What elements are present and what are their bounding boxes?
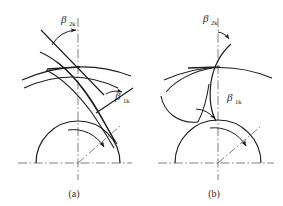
panel-a-blade-curve-1 bbox=[40, 52, 115, 142]
panel-a-secondary-arc bbox=[24, 77, 118, 88]
panel-a-beta1k-subscript: 1k bbox=[123, 97, 130, 104]
panel-b-outlet-angle-label: β 2k bbox=[202, 12, 218, 26]
panel-b-blade-curve-2 bbox=[198, 84, 209, 122]
panel-b-beta2k-symbol: β bbox=[202, 12, 209, 24]
panel-b-envelope-arc bbox=[161, 96, 198, 122]
panel-a-caption: (a) bbox=[68, 188, 79, 200]
panel-a-outlet-angle-label: β 2k bbox=[60, 13, 76, 27]
panel-b-radius-ray bbox=[218, 126, 261, 163]
panel-b-inlet-angle-label: β 1k bbox=[226, 91, 242, 105]
panel-a-beta1k-symbol: β bbox=[114, 90, 121, 102]
panel-a-blade-curve-3 bbox=[57, 62, 117, 144]
panel-a-outlet-angle-arc bbox=[52, 30, 76, 45]
panel-b-beta1k-subscript: 1k bbox=[235, 98, 242, 105]
panel-a-beta2k-subscript: 2k bbox=[69, 20, 76, 27]
panel-b-beta1k-symbol: β bbox=[226, 91, 233, 103]
panel-a-rotation-arrow bbox=[68, 130, 104, 147]
panel-b-blade-curve-1 bbox=[210, 44, 231, 121]
panel-b-beta2k-subscript: 2k bbox=[211, 19, 218, 26]
panel-a-outer-arc bbox=[22, 67, 131, 80]
figure-canvas: β 2k β 1k (a) bbox=[0, 0, 283, 206]
panel-a: β 2k β 1k (a) bbox=[18, 13, 133, 200]
blade-angle-figure: β 2k β 1k (a) bbox=[0, 0, 283, 206]
panel-b-outlet-angle-arc bbox=[218, 32, 229, 39]
panel-b-hub-semicircle bbox=[175, 120, 261, 163]
panel-b: β 2k β 1k (b) bbox=[158, 12, 274, 200]
panel-a-beta2k-symbol: β bbox=[60, 13, 67, 25]
panel-a-outlet-tangent-line bbox=[41, 30, 104, 95]
panel-b-caption: (b) bbox=[208, 188, 220, 200]
